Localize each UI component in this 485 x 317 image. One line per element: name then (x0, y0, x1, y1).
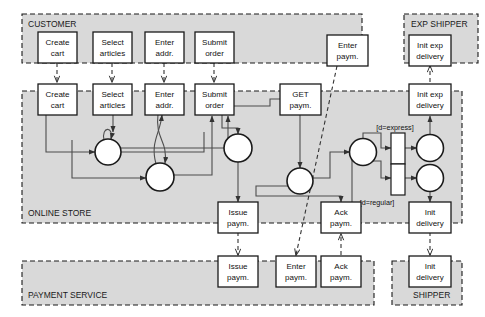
task-cust-select-articles-box[interactable] (93, 32, 132, 63)
task-cust-select-articles[interactable]: Select articles (93, 32, 132, 63)
task-cust-submit-order-line1: Submit (202, 38, 228, 47)
task-store-get-paym[interactable]: GET paym. (280, 84, 321, 115)
workflow-diagram: CUSTOMER EXP SHIPPER ONLINE STORE PAYMEN… (0, 0, 485, 317)
task-store-init-delivery-box[interactable] (409, 202, 451, 233)
task-pay-ack-paym[interactable]: Ack paym. (321, 256, 361, 287)
task-ship-init-delivery-box[interactable] (409, 256, 451, 287)
task-cust-enter-addr-line1: Enter (155, 38, 174, 47)
task-store-init-delivery[interactable]: Init delivery (409, 202, 451, 233)
task-store-create-cart-box[interactable] (38, 84, 77, 115)
task-cust-enter-paym[interactable]: Enter paym. (327, 35, 368, 66)
task-store-ack-paym-line2: paym. (330, 219, 352, 228)
task-cust-enter-paym-line1: Enter (338, 41, 357, 50)
task-cust-enter-addr-line2: addr. (156, 49, 174, 58)
task-store-select-articles-line2: articles (100, 101, 125, 110)
task-store-submit-order-line2: order (205, 101, 224, 110)
task-exp-init-exp-delivery-line2: delivery (416, 52, 444, 61)
guard-express-label: [d=express] (376, 123, 413, 132)
task-cust-enter-addr-box[interactable] (145, 32, 184, 63)
task-store-ack-paym-box[interactable] (321, 202, 361, 233)
task-cust-enter-paym-line2: paym. (337, 52, 359, 61)
task-pay-issue-paym[interactable]: Issue paym. (218, 256, 258, 287)
task-cust-submit-order-box[interactable] (195, 32, 234, 63)
place-2 (146, 163, 174, 191)
task-pay-issue-paym-line2: paym. (227, 273, 249, 282)
task-cust-create-cart-line2: cart (51, 49, 65, 58)
task-store-enter-addr-box[interactable] (145, 84, 184, 115)
payment-service-tasks: Issue paym. Enter paym. Ack paym. (218, 256, 361, 287)
task-cust-create-cart[interactable]: Create cart (38, 32, 77, 63)
lane-customer-label: CUSTOMER (28, 19, 77, 29)
task-store-create-cart-line2: cart (51, 101, 65, 110)
task-store-init-exp-delivery[interactable]: Init exp delivery (409, 84, 451, 115)
task-store-init-exp-delivery-box[interactable] (409, 84, 451, 115)
task-store-select-articles-box[interactable] (93, 84, 132, 115)
task-cust-create-cart-box[interactable] (38, 32, 77, 63)
lane-online-store-label: ONLINE STORE (28, 208, 91, 218)
task-cust-enter-paym-box[interactable] (327, 35, 368, 66)
task-store-create-cart-line1: Create (45, 90, 70, 99)
task-cust-create-cart-line1: Create (45, 38, 70, 47)
task-exp-init-exp-delivery[interactable]: Init exp delivery (409, 35, 451, 66)
place-1 (95, 139, 121, 165)
task-pay-ack-paym-line1: Ack (334, 262, 348, 271)
task-store-get-paym-line1: GET (292, 90, 309, 99)
task-store-get-paym-box[interactable] (280, 84, 321, 115)
place-7 (417, 165, 444, 192)
task-store-enter-addr-line1: Enter (155, 90, 174, 99)
task-cust-select-articles-line1: Select (101, 38, 124, 47)
task-pay-enter-paym[interactable]: Enter paym. (276, 256, 316, 287)
task-cust-submit-order[interactable]: Submit order (195, 32, 234, 63)
place-3 (224, 134, 252, 162)
silent-transition-regular (391, 164, 405, 195)
task-store-issue-paym[interactable]: Issue paym. (218, 202, 258, 233)
task-cust-enter-addr[interactable]: Enter addr. (145, 32, 184, 63)
task-pay-ack-paym-box[interactable] (321, 256, 361, 287)
task-store-issue-paym-line2: paym. (227, 219, 249, 228)
task-cust-submit-order-line2: order (205, 49, 224, 58)
task-pay-issue-paym-line1: Issue (228, 262, 248, 271)
task-ship-init-delivery-line1: Init (425, 262, 436, 271)
guard-regular-label: [d=regular] (360, 198, 395, 207)
task-store-enter-addr[interactable]: Enter addr. (145, 84, 184, 115)
lane-exp-shipper-label: EXP SHIPPER (411, 19, 468, 29)
task-store-select-articles[interactable]: Select articles (93, 84, 132, 115)
task-store-init-exp-delivery-line1: Init exp (417, 90, 443, 99)
task-store-init-delivery-line2: delivery (416, 219, 444, 228)
task-store-ack-paym-line1: Ack (334, 208, 348, 217)
task-store-submit-order[interactable]: Submit order (195, 84, 234, 115)
task-ship-init-delivery-line2: delivery (416, 273, 444, 282)
task-store-submit-order-box[interactable] (195, 84, 234, 115)
task-store-init-delivery-line1: Init (425, 208, 436, 217)
task-store-issue-paym-line1: Issue (228, 208, 248, 217)
silent-transitions-layer (391, 133, 405, 195)
task-ship-init-delivery[interactable]: Init delivery (409, 256, 451, 287)
place-4 (287, 168, 313, 194)
task-store-submit-order-line1: Submit (202, 90, 228, 99)
task-store-get-paym-line2: paym. (290, 101, 312, 110)
task-store-ack-paym[interactable]: Ack paym. (321, 202, 361, 233)
task-pay-ack-paym-line2: paym. (330, 273, 352, 282)
task-store-issue-paym-box[interactable] (218, 202, 258, 233)
lane-payment-service-label: PAYMENT SERVICE (28, 290, 108, 300)
task-pay-enter-paym-line2: paym. (285, 273, 307, 282)
task-pay-enter-paym-line1: Enter (286, 262, 305, 271)
task-pay-issue-paym-box[interactable] (218, 256, 258, 287)
lane-shipper-label: SHIPPER (413, 290, 450, 300)
place-6 (417, 135, 444, 162)
task-store-create-cart[interactable]: Create cart (38, 84, 77, 115)
task-exp-init-exp-delivery-line1: Init exp (417, 41, 443, 50)
task-pay-enter-paym-box[interactable] (276, 256, 316, 287)
diagram-canvas: CUSTOMER EXP SHIPPER ONLINE STORE PAYMEN… (0, 0, 485, 317)
place-5 (350, 139, 377, 166)
task-store-enter-addr-line2: addr. (156, 101, 174, 110)
task-exp-init-exp-delivery-box[interactable] (409, 35, 451, 66)
task-cust-select-articles-line2: articles (100, 49, 125, 58)
task-store-select-articles-line1: Select (101, 90, 124, 99)
task-store-init-exp-delivery-line2: delivery (416, 101, 444, 110)
silent-transition-express (391, 133, 405, 164)
